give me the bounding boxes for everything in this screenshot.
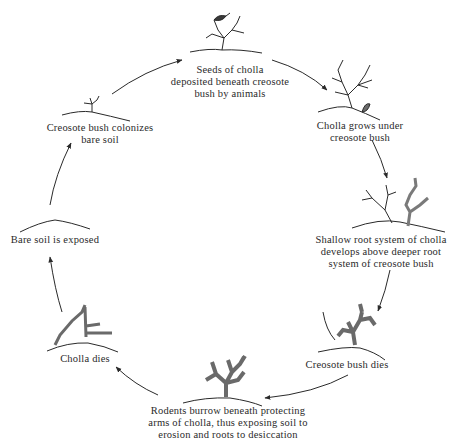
label-line: Shallow root system of cholla [306, 234, 456, 246]
stage-label-cholla-grows: Cholla grows under creosote bush [300, 120, 420, 144]
label-line: Seeds of cholla [150, 64, 310, 76]
stage-label-creosote-dies: Creosote bush dies [302, 359, 392, 371]
seeds-creosote-bird-illustration [190, 13, 262, 53]
creosote-colonize-illustration [62, 96, 130, 121]
label-line: develops above deeper root [306, 246, 456, 258]
bare-soil-illustration [20, 220, 90, 232]
arrow-rodents-to-cholla-dies [116, 367, 158, 395]
shallow-roots-illustration [352, 178, 445, 232]
stage-label-creosote-colonizes: Creosote bush colonizes bare soil [40, 122, 160, 146]
label-line: Creosote bush dies [302, 359, 392, 371]
cholla-dies-illustration [47, 305, 118, 352]
label-line: bush by animals [150, 88, 310, 100]
cholla-grows-illustration [318, 60, 380, 120]
arrow-bare-soil-to-colonize [50, 143, 71, 205]
stage-label-bare-soil: Bare soil is exposed [5, 234, 105, 246]
rodents-cholla-illustration [183, 356, 262, 406]
stage-label-rodents: Rodents burrow beneath protecting arms o… [128, 405, 328, 440]
label-line: bare soil [40, 134, 160, 146]
label-line: arms of cholla, thus exposing soil to [128, 417, 328, 429]
stage-label-cholla-dies: Cholla dies [55, 353, 115, 365]
label-line: system of creosote bush [306, 258, 456, 270]
label-line: creosote bush [300, 132, 420, 144]
arrow-cholla-dies-to-bare-soil [50, 257, 62, 312]
arrow-grows-to-roots [372, 140, 387, 178]
label-line: deposited beneath creosote [150, 76, 310, 88]
label-line: Bare soil is exposed [5, 234, 105, 246]
stage-label-shallow-roots: Shallow root system of cholla develops a… [306, 234, 456, 270]
label-line: Creosote bush colonizes [40, 122, 160, 134]
creosote-dies-illustration [318, 304, 385, 360]
label-line: Cholla grows under [300, 120, 420, 132]
label-line: Cholla dies [55, 353, 115, 365]
stage-label-seeds: Seeds of cholla deposited beneath creoso… [150, 64, 310, 100]
arrow-creosote-dies-to-rodents [265, 375, 348, 398]
label-line: erosion and roots to desiccation [128, 429, 328, 440]
label-line: Rodents burrow beneath protecting [128, 405, 328, 417]
arrow-roots-to-creosote-dies [378, 270, 390, 311]
